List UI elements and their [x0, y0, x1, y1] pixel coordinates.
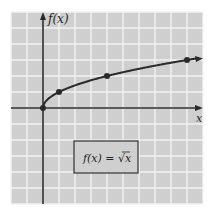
y-axis-label: f(x) [47, 12, 69, 26]
data-point [56, 89, 62, 95]
data-point [184, 57, 190, 63]
data-point [104, 73, 110, 79]
function-graph: f(x) x f(x) = √x [0, 0, 212, 214]
formula-text: f(x) = √x [82, 152, 132, 165]
x-axis-label: x [196, 112, 203, 125]
data-point [40, 105, 46, 111]
